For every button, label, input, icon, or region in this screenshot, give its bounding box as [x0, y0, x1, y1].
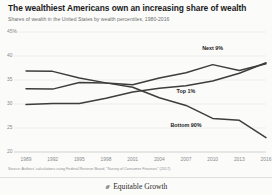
- x-axis-tick: 2010: [207, 157, 218, 162]
- chart-footer: Equitable Growth: [0, 177, 272, 195]
- x-axis-tick: 2007: [181, 157, 192, 162]
- y-axis-tick: 20: [7, 149, 12, 154]
- x-axis-tick: 1995: [74, 157, 85, 162]
- series-label-next-9: Next 9%: [202, 45, 223, 51]
- brand-name: Equitable Growth: [113, 182, 167, 191]
- x-axis-tick: 1992: [47, 157, 58, 162]
- chart-figure: The wealthiest Americans own an increasi…: [0, 0, 272, 195]
- x-axis-tick: 1998: [101, 157, 112, 162]
- x-axis-tick: 1989: [21, 157, 32, 162]
- series-label-top-1: Top 1%: [177, 88, 196, 94]
- x-axis-tick: 2004: [154, 157, 165, 162]
- y-axis-tick: 35: [7, 77, 12, 82]
- x-axis-tick: 2016: [261, 157, 272, 162]
- leaf-icon: [105, 184, 111, 190]
- y-axis-tick: 45%: [7, 29, 17, 34]
- line-chart-plot: [0, 0, 272, 195]
- y-axis-tick: 25: [7, 125, 12, 130]
- x-axis-tick: 2013: [234, 157, 245, 162]
- series-label-bottom-90: Bottom 90%: [170, 122, 201, 128]
- source-note: Source: Authors' calculations using Fede…: [8, 167, 171, 171]
- series-line: [26, 64, 266, 85]
- y-axis-tick: 30: [7, 101, 12, 106]
- y-axis-tick: 40: [7, 53, 12, 58]
- x-axis-tick: 2001: [127, 157, 138, 162]
